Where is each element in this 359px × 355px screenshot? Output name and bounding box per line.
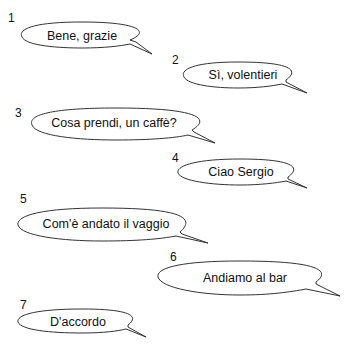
bubble-text: D'accordo — [40, 315, 116, 329]
speech-bubble-7: 7 D'accordo — [0, 0, 359, 355]
speech-bubble-shape-icon — [0, 0, 359, 355]
bubble-number: 7 — [20, 299, 27, 311]
